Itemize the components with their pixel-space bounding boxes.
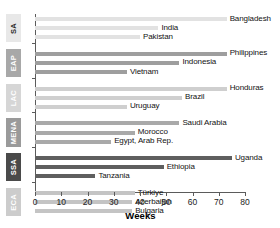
group-label-eap: EAP xyxy=(6,49,21,77)
bar-label: Türkiye xyxy=(138,188,164,197)
bar xyxy=(35,131,135,135)
group-label-mena: MENA xyxy=(6,118,21,146)
group-label-text: SSA xyxy=(10,159,18,175)
x-axis-tick-label: 0 xyxy=(33,197,38,207)
bar-label: Indonesia xyxy=(182,57,216,66)
bar-row: Uganda xyxy=(35,156,245,160)
x-axis-tick-label: 50 xyxy=(162,197,171,207)
x-axis-tick xyxy=(166,192,167,196)
bar xyxy=(35,174,95,178)
y-axis-group-tick xyxy=(32,78,36,79)
bar-label: Pakistan xyxy=(143,32,173,41)
bar xyxy=(35,35,140,39)
bar xyxy=(35,121,179,125)
bar xyxy=(35,17,227,21)
bar xyxy=(35,191,135,195)
bar xyxy=(35,52,227,56)
y-axis-group-tick xyxy=(32,112,36,113)
group-label-text: SA xyxy=(10,23,18,34)
bar-row: Ethiopia xyxy=(35,165,245,169)
x-axis-tick xyxy=(193,192,194,196)
bar-label: India xyxy=(161,23,178,32)
bar xyxy=(35,61,179,65)
bar-label: Philippines xyxy=(230,48,268,57)
bar-label: Brazil xyxy=(185,92,204,101)
bar-label: Egypt, Arab Rep. xyxy=(114,136,173,145)
group-label-sa: SA xyxy=(6,14,21,42)
x-axis-tick-label: 30 xyxy=(109,197,118,207)
bar-row: Vietnam xyxy=(35,70,245,74)
bar xyxy=(35,87,227,91)
x-axis-tick-label: 10 xyxy=(57,197,66,207)
plot-area: BangladeshIndiaPakistanPhilippinesIndone… xyxy=(35,14,245,192)
x-axis-tick-label: 70 xyxy=(214,197,223,207)
bar-row: Brazil xyxy=(35,96,245,100)
x-axis-tick-label: 40 xyxy=(135,197,144,207)
bar-row: Saudi Arabia xyxy=(35,121,245,125)
y-axis-group-tick xyxy=(32,182,36,183)
bar-label: Vietnam xyxy=(130,67,159,76)
bar-label: Honduras xyxy=(230,83,264,92)
bar xyxy=(35,140,111,144)
x-axis-tick xyxy=(88,192,89,196)
group-label-lac: LAC xyxy=(6,84,21,112)
bar-label: Uganda xyxy=(235,153,262,162)
x-axis-tick-label: 20 xyxy=(83,197,92,207)
x-axis-tick xyxy=(35,192,36,196)
x-axis-tick xyxy=(61,192,62,196)
bar xyxy=(35,105,127,109)
bar-row: Honduras xyxy=(35,87,245,91)
bar xyxy=(35,96,182,100)
x-axis-tick xyxy=(245,192,246,196)
group-label-text: EAP xyxy=(10,55,18,71)
x-axis-tick-label: 80 xyxy=(240,197,249,207)
group-label-text: MENA xyxy=(10,121,18,144)
bar xyxy=(35,165,164,169)
y-axis-group-tick xyxy=(32,147,36,148)
x-axis-tick xyxy=(140,192,141,196)
bar-chart: BangladeshIndiaPakistanPhilippinesIndone… xyxy=(0,0,280,228)
bar-row: Tanzania xyxy=(35,174,245,178)
bar-row: Philippines xyxy=(35,52,245,56)
x-axis-tick xyxy=(114,192,115,196)
x-axis-tick xyxy=(219,192,220,196)
x-axis-title: Weeks xyxy=(35,210,246,221)
bar-label: Morocco xyxy=(138,127,168,136)
bar-row: Bangladesh xyxy=(35,17,245,21)
bar xyxy=(35,156,232,160)
y-axis-group-tick xyxy=(32,43,36,44)
bar-label: Tanzania xyxy=(98,171,129,180)
x-axis-tick-label: 60 xyxy=(188,197,197,207)
group-label-text: ECA xyxy=(10,194,18,211)
bar-label: Uruguay xyxy=(130,101,160,110)
bar-row: Uruguay xyxy=(35,105,245,109)
group-label-eca: ECA xyxy=(6,188,21,216)
bar-row: Morocco xyxy=(35,131,245,135)
bar-label: Bangladesh xyxy=(230,14,271,23)
bar xyxy=(35,26,158,30)
bar xyxy=(35,70,127,74)
bar-label: Saudi Arabia xyxy=(182,118,226,127)
bar-label: Ethiopia xyxy=(167,162,195,171)
bar-row: Indonesia xyxy=(35,61,245,65)
bar-row: Pakistan xyxy=(35,35,245,39)
bar-row: Egypt, Arab Rep. xyxy=(35,140,245,144)
bar-row: India xyxy=(35,26,245,30)
group-label-ssa: SSA xyxy=(6,153,21,181)
group-label-text: LAC xyxy=(10,90,18,106)
